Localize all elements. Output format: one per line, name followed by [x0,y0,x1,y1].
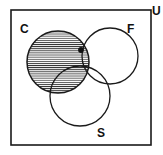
element-dot-marker[interactable] [78,47,84,53]
set-label-f: F [127,22,134,36]
universe-label-u: U [152,4,161,18]
set-label-c: C [20,22,29,36]
venn-diagram-figure: C F S U [0,0,163,155]
set-label-s: S [97,126,105,140]
venn-diagram-canvas: C F S U [0,0,163,155]
